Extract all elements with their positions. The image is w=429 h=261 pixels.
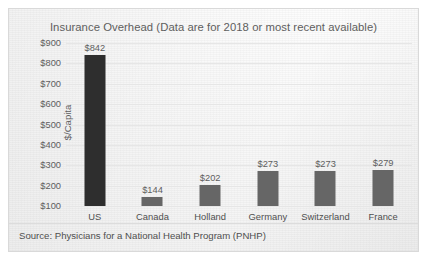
bar-value-label: $842 [84,43,105,53]
x-axis-category-label: Holland [194,211,226,222]
plot-area: $900$800$700$600$500$400$300$200$100 $/C… [66,43,412,206]
bar-canada[interactable] [142,197,163,206]
chart-title: Insurance Overhead (Data are for 2018 or… [9,21,418,33]
x-axis-category-label: Switzerland [301,211,349,222]
y-axis-tick-label: $200 [21,181,61,191]
bar-france[interactable] [373,170,394,206]
y-axis-tick-label: $700 [21,79,61,89]
bar-group: $144Canada [124,43,182,206]
bar-value-label: $273 [257,159,278,169]
x-axis-category-label: France [369,211,398,222]
bar-group: $202Holland [181,43,239,206]
x-axis-category-label: US [88,211,101,222]
bar-group: $279France [354,43,412,206]
bar-germany[interactable] [257,171,278,206]
bar-value-label: $202 [200,173,221,183]
y-axis-tick-label: $600 [21,99,61,109]
bar-value-label: $273 [315,159,336,169]
y-axis-tick-label: $500 [21,120,61,130]
bar-group: $273Germany [239,43,297,206]
gridline [66,206,412,207]
y-axis-tick-label: $400 [21,140,61,150]
bar-switzerland[interactable] [315,171,336,206]
bar-us[interactable] [84,55,105,206]
bar-value-label: $279 [373,158,394,168]
bar-group: $273Switzerland [297,43,355,206]
y-axis-tick-label: $100 [21,201,61,211]
chart-card: Insurance Overhead (Data are for 2018 or… [8,8,419,252]
x-axis-category-label: Germany [249,211,288,222]
y-axis-tick-label: $300 [21,160,61,170]
y-axis-tick-label: $900 [21,38,61,48]
source-note: Source: Physicians for a National Health… [19,230,266,241]
footer-divider [9,223,418,224]
bar-value-label: $144 [142,185,163,195]
bar-group: $842US [66,43,124,206]
x-axis-category-label: Canada [136,211,169,222]
y-axis-tick-label: $800 [21,58,61,68]
bar-holland[interactable] [200,185,221,206]
